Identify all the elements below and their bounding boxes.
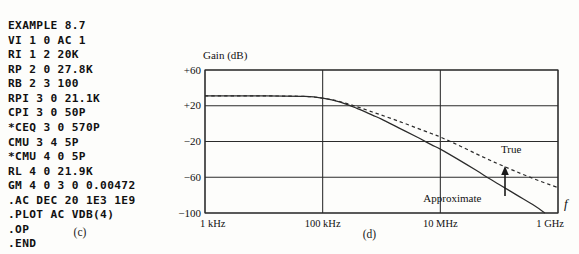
spice-netlist-panel: EXAMPLE 8.7 VI 1 0 AC 1 RI 1 2 20K RP 2 … [0,0,160,254]
bode-plot-svg: Gain (dB) +60+20−20−60−100 1 kHz100 kHz1… [160,0,579,232]
y-tick-label: −100 [178,207,201,219]
true-curve-label: True [501,143,521,155]
y-tick-labels: +60+20−20−60−100 [178,64,201,219]
spice-netlist-code: EXAMPLE 8.7 VI 1 0 AC 1 RI 1 2 20K RP 2 … [8,19,136,252]
y-tick-label: +20 [184,99,202,111]
y-tick-label: +60 [184,64,202,76]
y-tick-label: −60 [184,171,202,183]
panel-d-caption: (d) [160,228,579,240]
y-tick-label: −20 [184,135,202,147]
panel-c-caption: (c) [0,226,160,238]
x-axis-label: f [564,196,570,211]
approximate-curve-label: Approximate [423,192,481,204]
bode-plot-panel: Gain (dB) +60+20−20−60−100 1 kHz100 kHz1… [160,0,579,254]
pointer-arrow-icon [501,166,509,196]
curve-approximate [205,96,545,213]
y-axis-label: Gain (dB) [203,49,248,62]
